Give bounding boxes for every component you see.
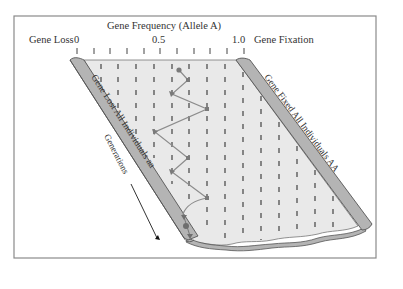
path-loss-marker (183, 223, 189, 229)
path-start-marker (176, 67, 181, 72)
axis-tick-label-0-5: 0.5 (152, 34, 165, 45)
genetic-drift-diagram: Gene Frequency (Allele A) Gene Loss 0 0.… (0, 0, 403, 289)
diagram-title: Gene Frequency (Allele A) (107, 20, 222, 32)
gene-loss-label: Gene Loss (29, 34, 74, 45)
axis-tick-label-0: 0 (74, 34, 79, 45)
gene-fixation-label: Gene Fixation (254, 34, 315, 45)
axis-tick-label-1-0: 1.0 (232, 34, 245, 45)
